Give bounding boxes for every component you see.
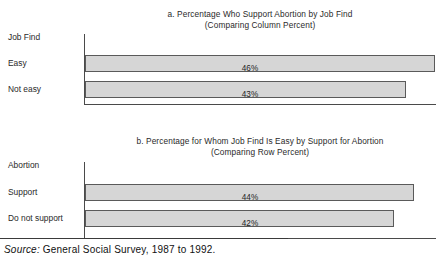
panel-b-title-line2: (Comparing Row Percent) <box>84 147 436 158</box>
panel-b-bar-0: 44% <box>85 184 414 201</box>
panel-a-x-axis-baseline <box>84 104 436 105</box>
source-text: General Social Survey, 1987 to 1992. <box>40 244 216 255</box>
panel-b-category-label-0: Support <box>8 187 37 197</box>
panel-b-title-line1: b. Percentage for Whom Job Find Is Easy … <box>136 136 383 146</box>
panel-a-title-line2: (Comparing Column Percent) <box>84 20 436 31</box>
panel-a-group-header: Job Find <box>8 32 40 42</box>
source-note: Source: General Social Survey, 1987 to 1… <box>4 244 216 255</box>
panel-a-category-label-1: Not easy <box>8 84 41 94</box>
panel-b-bar-1-value: 42% <box>242 219 258 228</box>
panel-b-bar-1: 42% <box>85 210 394 227</box>
panel-a-bar-0-value: 46% <box>242 64 258 73</box>
panel-b-bar-0-value: 44% <box>242 193 258 202</box>
panel-b-category-label-1: Do not support <box>8 213 63 223</box>
panel-a-plot-area: 46% 43% <box>84 34 436 105</box>
panel-a-category-label-0: Easy <box>8 58 27 68</box>
panel-b-group-header: Abortion <box>8 160 39 170</box>
source-divider <box>0 238 288 239</box>
panel-a-bar-1: 43% <box>85 81 406 98</box>
panel-a-bar-1-value: 43% <box>242 90 258 99</box>
source-label: Source: <box>4 244 40 255</box>
panel-b-plot-area: 44% 42% <box>84 162 436 239</box>
panel-a-title-line1: a. Percentage Who Support Abortion by Jo… <box>168 9 353 19</box>
panel-a-bar-0: 46% <box>85 55 435 72</box>
panel-b-title: b. Percentage for Whom Job Find Is Easy … <box>84 136 436 157</box>
figure-container: a. Percentage Who Support Abortion by Jo… <box>0 0 439 265</box>
panel-a-title: a. Percentage Who Support Abortion by Jo… <box>84 9 436 30</box>
